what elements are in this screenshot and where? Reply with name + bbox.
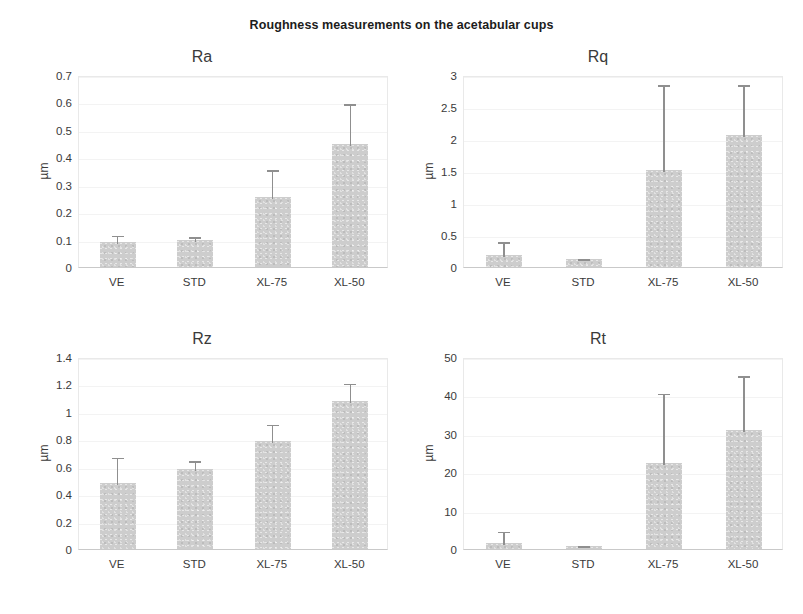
bar-ra-XL-75 xyxy=(255,197,291,267)
error-bar-cap xyxy=(498,532,511,533)
y-axis-label-rq: µm xyxy=(422,151,436,191)
error-bar-line xyxy=(503,242,504,257)
error-bar-cap xyxy=(267,425,279,426)
chart-title-rt: Rt xyxy=(405,330,791,348)
y-tick-label-rz: 1 xyxy=(16,407,72,419)
error-bar-cap xyxy=(189,461,201,462)
y-tick-label-rt: 10 xyxy=(405,506,457,518)
gridline xyxy=(79,104,387,105)
error-bar-cap xyxy=(738,85,751,86)
error-bar-cap xyxy=(658,85,671,86)
bar-rz-XL-50 xyxy=(332,401,368,549)
error-bar-cap xyxy=(344,104,356,105)
chart-title-rq: Rq xyxy=(405,48,791,66)
y-tick-label-rq: 2.5 xyxy=(405,102,457,114)
error-bar-cap xyxy=(267,170,279,171)
bar-rz-XL-75 xyxy=(255,441,291,549)
bar-ra-VE xyxy=(100,242,136,267)
chart-panel-rt: Rt01020304050µmVESTDXL-75XL-50 xyxy=(405,330,791,582)
y-tick-label-rz: 0 xyxy=(16,544,72,556)
bar-ra-XL-50 xyxy=(332,144,368,267)
y-axis-label-ra: µm xyxy=(37,151,51,191)
y-tick-label-rt: 50 xyxy=(405,352,457,364)
error-bar-cap xyxy=(738,376,751,377)
gridline xyxy=(464,109,782,110)
error-bar-line xyxy=(195,461,196,471)
x-tick-label-rq-XL-50: XL-50 xyxy=(728,276,759,288)
y-tick-label-rq: 1 xyxy=(405,198,457,210)
x-tick-label-rt-VE: VE xyxy=(495,558,510,570)
gridline xyxy=(79,386,387,387)
x-tick-label-rt-XL-75: XL-75 xyxy=(648,558,679,570)
y-axis-label-rt: µm xyxy=(422,433,436,473)
figure-title: Roughness measurements on the acetabular… xyxy=(0,18,803,32)
x-tick-label-rq-VE: VE xyxy=(495,276,510,288)
x-tick-label-ra-XL-75: XL-75 xyxy=(256,276,287,288)
y-tick-label-rq: 0.5 xyxy=(405,230,457,242)
error-bar-cap xyxy=(112,236,124,237)
error-bar-line xyxy=(503,532,504,545)
chart-title-ra: Ra xyxy=(16,48,388,66)
error-bar-line xyxy=(663,85,664,171)
plot-area-rz xyxy=(78,358,388,550)
gridline xyxy=(464,397,782,398)
plot-area-rq xyxy=(463,76,783,268)
y-tick-label-rq: 2 xyxy=(405,134,457,146)
y-tick-label-rz: 0.4 xyxy=(16,489,72,501)
gridline xyxy=(79,132,387,133)
error-bar-line xyxy=(272,170,273,199)
error-bar-cap xyxy=(658,394,671,395)
error-bar-line xyxy=(663,394,664,465)
y-tick-label-ra: 0.5 xyxy=(16,125,72,137)
error-bar-line xyxy=(117,458,118,485)
y-tick-label-rq: 0 xyxy=(405,262,457,274)
error-bar-cap xyxy=(112,458,124,459)
y-axis-label-rz: µm xyxy=(37,433,51,473)
x-tick-label-rq-STD: STD xyxy=(572,276,595,288)
bar-rt-XL-50 xyxy=(726,430,763,549)
error-bar-cap xyxy=(189,237,201,238)
error-bar-cap xyxy=(578,546,591,547)
x-tick-label-rz-STD: STD xyxy=(183,558,206,570)
error-bar-line xyxy=(272,425,273,443)
y-tick-label-rt: 40 xyxy=(405,390,457,402)
chart-panel-rq: Rq00.511.522.53µmVESTDXL-75XL-50 xyxy=(405,48,791,300)
x-tick-label-rz-VE: VE xyxy=(109,558,124,570)
bar-rz-VE xyxy=(100,483,136,549)
error-bar-cap xyxy=(578,259,591,260)
y-tick-label-rz: 1.2 xyxy=(16,379,72,391)
y-tick-label-rq: 3 xyxy=(405,70,457,82)
x-tick-label-rt-STD: STD xyxy=(572,558,595,570)
error-bar-cap xyxy=(498,242,511,243)
chart-panel-rz: Rz00.20.40.60.811.21.4µmVESTDXL-75XL-50 xyxy=(16,330,388,582)
chart-panel-ra: Ra00.10.20.30.40.50.60.7µmVESTDXL-75XL-5… xyxy=(16,48,388,300)
bar-ra-STD xyxy=(177,240,213,267)
gridline xyxy=(79,359,387,360)
y-tick-label-ra: 0.1 xyxy=(16,235,72,247)
plot-area-ra xyxy=(78,76,388,268)
plot-area-rt xyxy=(463,358,783,550)
x-tick-label-rz-XL-50: XL-50 xyxy=(334,558,365,570)
bar-rt-XL-75 xyxy=(646,463,683,549)
error-bar-cap xyxy=(344,384,356,385)
figure-canvas: Roughness measurements on the acetabular… xyxy=(0,0,803,614)
y-tick-label-rz: 0.2 xyxy=(16,517,72,529)
x-tick-label-rt-XL-50: XL-50 xyxy=(728,558,759,570)
bar-rq-XL-75 xyxy=(646,170,683,267)
gridline xyxy=(79,77,387,78)
gridline xyxy=(464,359,782,360)
bar-rq-XL-50 xyxy=(726,135,763,267)
error-bar-line xyxy=(743,85,744,137)
y-tick-label-ra: 0.6 xyxy=(16,97,72,109)
x-tick-label-ra-XL-50: XL-50 xyxy=(334,276,365,288)
x-tick-label-ra-STD: STD xyxy=(183,276,206,288)
chart-title-rz: Rz xyxy=(16,330,388,348)
error-bar-line xyxy=(350,104,351,145)
x-tick-label-rz-XL-75: XL-75 xyxy=(256,558,287,570)
y-tick-label-ra: 0.2 xyxy=(16,207,72,219)
error-bar-line xyxy=(350,384,351,403)
error-bar-line xyxy=(743,376,744,432)
gridline xyxy=(464,77,782,78)
y-tick-label-ra: 0 xyxy=(16,262,72,274)
bar-rz-STD xyxy=(177,469,213,549)
